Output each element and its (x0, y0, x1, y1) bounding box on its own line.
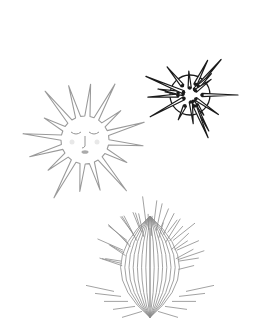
dark-urchin-figure (146, 60, 238, 138)
cactus-urchin-figure (86, 196, 214, 317)
illustration-canvas (0, 0, 268, 334)
sun-face-figure (23, 84, 144, 198)
